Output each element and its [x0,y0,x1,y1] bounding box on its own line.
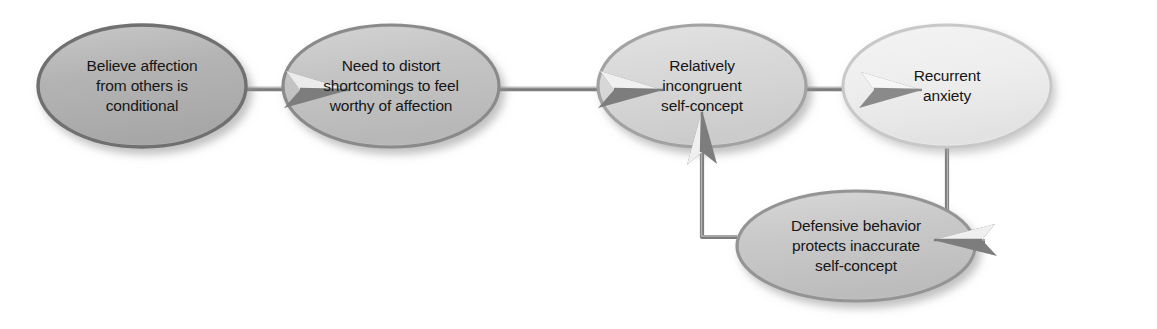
node-hit-need-to-distort[interactable] [283,25,499,147]
flowchart-diagram: Believe affection from others is conditi… [0,0,1157,329]
node-hit-defensive-behavior[interactable] [737,191,975,301]
node-hit-believe-affection-conditional[interactable] [38,25,246,147]
node-hit-recurrent-anxiety[interactable] [843,25,1051,147]
arrow-defensive-to-incongruent [702,150,738,237]
node-hit-relatively-incongruent-self-concept[interactable] [598,25,806,147]
